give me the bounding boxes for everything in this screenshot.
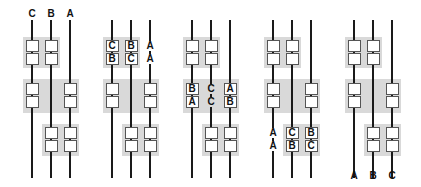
station-box: [64, 96, 77, 108]
station-box: C: [106, 40, 119, 52]
station-box: [386, 140, 399, 152]
station-box: [45, 127, 58, 139]
station-box: [144, 83, 157, 95]
station-box: [144, 96, 157, 108]
strand-label-bottom: A: [348, 171, 360, 181]
strand-label-top: C: [26, 9, 38, 19]
station-box: [386, 83, 399, 95]
station-box: [205, 127, 218, 139]
station-box: [267, 83, 280, 95]
station-box: [386, 127, 399, 139]
station-box: B: [286, 140, 299, 152]
station-box: [348, 40, 361, 52]
station-box: C: [305, 140, 318, 152]
swap-label: C: [205, 84, 217, 94]
station-box: [267, 96, 280, 108]
station-box: A: [224, 83, 237, 95]
station-box: B: [125, 40, 138, 52]
station-box: [367, 40, 380, 52]
station-box: [26, 83, 39, 95]
station-box: [205, 140, 218, 152]
strand-label-bottom: B: [367, 171, 379, 181]
station-box: [205, 53, 218, 65]
station-box: [348, 96, 361, 108]
station-box: [106, 96, 119, 108]
station-box: [125, 127, 138, 139]
station-box: A: [186, 96, 199, 108]
station-box: [286, 40, 299, 52]
strand-label-top: B: [45, 9, 57, 19]
station-box: [64, 140, 77, 152]
station-box: [305, 83, 318, 95]
station-box: [26, 96, 39, 108]
station-box: [106, 83, 119, 95]
station-box: [367, 53, 380, 65]
swap-label: A: [144, 54, 156, 64]
station-box: B: [224, 96, 237, 108]
station-box: [26, 40, 39, 52]
station-box: [305, 96, 318, 108]
station-box: [144, 127, 157, 139]
swap-label: A: [267, 128, 279, 138]
station-box: C: [286, 127, 299, 139]
station-box: [205, 40, 218, 52]
strand-label-bottom: C: [386, 171, 398, 181]
station-box: B: [186, 83, 199, 95]
station-box: [224, 140, 237, 152]
swap-label: A: [267, 141, 279, 151]
station-box: [348, 53, 361, 65]
station-box: [348, 83, 361, 95]
station-box: [64, 127, 77, 139]
station-box: [45, 40, 58, 52]
station-box: [267, 53, 280, 65]
station-box: [45, 140, 58, 152]
station-box: [286, 53, 299, 65]
station-box: B: [106, 53, 119, 65]
station-box: B: [305, 127, 318, 139]
station-box: [367, 140, 380, 152]
station-box: [26, 53, 39, 65]
swap-label: C: [205, 97, 217, 107]
station-box: [186, 53, 199, 65]
strand-label-top: A: [64, 9, 76, 19]
station-box: [224, 127, 237, 139]
station-box: [386, 96, 399, 108]
station-box: [367, 127, 380, 139]
swap-label: A: [144, 41, 156, 51]
station-box: [45, 53, 58, 65]
station-box: [267, 40, 280, 52]
station-box: [186, 40, 199, 52]
station-box: [125, 140, 138, 152]
station-box: [144, 140, 157, 152]
station-box: [64, 83, 77, 95]
station-box: C: [125, 53, 138, 65]
